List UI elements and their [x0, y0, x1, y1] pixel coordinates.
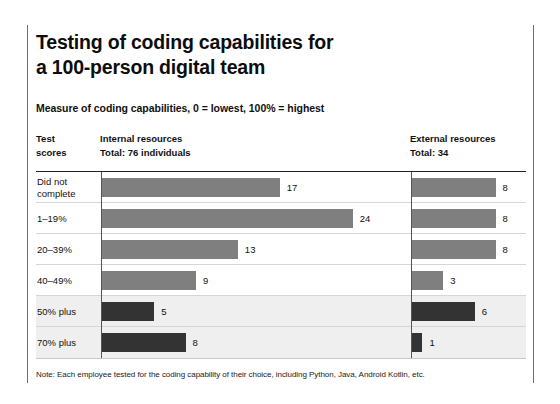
chart-row: 20–39%138 [36, 234, 526, 265]
bar-value-internal: 13 [245, 245, 256, 255]
bar-value-external: 3 [450, 276, 455, 286]
chart-subtitle: Measure of coding capabilities, 0 = lowe… [36, 102, 526, 114]
bar-group-internal: 13 [102, 234, 255, 265]
column-header-test-scores: Test scores [36, 132, 67, 159]
bar-group-external: 6 [412, 296, 487, 327]
bar-chart: Did not complete1781–19%24820–39%13840–4… [36, 171, 526, 358]
footnote-separator [36, 358, 526, 359]
column-headers: Test scores Internal resources Total: 76… [36, 132, 526, 162]
bar-external [412, 178, 496, 197]
bar-value-internal: 5 [161, 307, 166, 317]
bar-value-internal: 17 [287, 183, 298, 193]
bar-value-external: 1 [429, 338, 434, 348]
chart-row: 50% plus56 [36, 296, 526, 327]
bar-group-external: 3 [412, 265, 456, 296]
page-rule-left [27, 25, 28, 383]
bar-group-internal: 5 [102, 296, 167, 327]
bar-internal [102, 209, 353, 228]
bar-group-internal: 8 [102, 327, 198, 358]
row-label: 70% plus [37, 327, 99, 358]
bar-group-internal: 17 [102, 172, 297, 203]
bar-external [412, 302, 475, 321]
bar-value-external: 8 [503, 183, 508, 193]
bar-value-internal: 9 [203, 276, 208, 286]
chart-row: Did not complete178 [36, 172, 526, 203]
content-area: Testing of coding capabilities for a 100… [36, 30, 526, 379]
chart-footnote: Note: Each employee tested for the codin… [36, 370, 526, 379]
bar-internal [102, 240, 238, 259]
bar-value-external: 8 [503, 245, 508, 255]
bar-group-external: 8 [412, 234, 508, 265]
bar-external [412, 271, 443, 290]
bar-external [412, 240, 496, 259]
bar-value-external: 6 [482, 307, 487, 317]
bar-internal [102, 333, 186, 352]
row-label: 50% plus [37, 296, 99, 327]
bar-group-external: 8 [412, 203, 508, 234]
column-header-internal-resources: Internal resources Total: 76 individuals [100, 132, 191, 159]
chart-row: 1–19%248 [36, 203, 526, 234]
bar-value-internal: 8 [193, 338, 198, 348]
row-label: Did not complete [37, 172, 99, 203]
bar-group-external: 1 [412, 327, 435, 358]
column-header-external-resources: External resources Total: 34 [410, 132, 496, 159]
bar-internal [102, 271, 196, 290]
bar-value-external: 8 [503, 214, 508, 224]
bar-internal [102, 302, 154, 321]
bar-group-internal: 9 [102, 265, 208, 296]
infographic-page: Testing of coding capabilities for a 100… [0, 0, 560, 404]
chart-row: 40–49%93 [36, 265, 526, 296]
page-rule-right [533, 25, 534, 383]
bar-value-internal: 24 [360, 214, 371, 224]
row-label: 40–49% [37, 265, 99, 296]
page-title: Testing of coding capabilities for a 100… [36, 30, 526, 80]
row-label: 20–39% [37, 234, 99, 265]
row-label: 1–19% [37, 203, 99, 234]
bar-external [412, 209, 496, 228]
bar-group-internal: 24 [102, 203, 370, 234]
bar-external [412, 333, 422, 352]
bar-internal [102, 178, 280, 197]
chart-row: 70% plus81 [36, 327, 526, 358]
bar-group-external: 8 [412, 172, 508, 203]
